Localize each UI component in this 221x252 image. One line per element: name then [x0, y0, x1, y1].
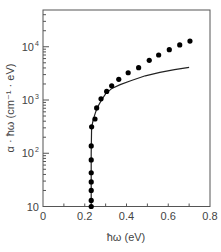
data-markers: [89, 38, 193, 209]
chart: 00.20.40.60.8 10102103104 ħω (eV) α · ħω…: [0, 0, 221, 252]
y-tick-label: 10: [27, 201, 39, 213]
x-tick-label: 0.8: [202, 210, 217, 222]
data-point: [136, 65, 141, 70]
data-point: [89, 188, 94, 193]
data-point: [98, 96, 103, 101]
data-point: [89, 198, 94, 203]
data-point: [89, 124, 94, 129]
y-tick-exponent: 3: [35, 93, 39, 100]
data-point: [94, 105, 99, 110]
y-axis-ticks: 10102103104: [22, 15, 49, 213]
fit-curve: [91, 67, 189, 206]
data-point: [92, 116, 97, 121]
x-tick-label: 0.6: [161, 210, 176, 222]
data-point: [187, 38, 192, 43]
y-tick-label: 10: [22, 94, 34, 106]
y-tick-exponent: 2: [35, 146, 39, 153]
data-point: [89, 204, 94, 209]
data-point: [89, 179, 94, 184]
y-tick-label: 10: [22, 147, 34, 159]
data-point: [89, 143, 94, 148]
data-point: [116, 77, 121, 82]
data-point: [109, 83, 114, 88]
data-point: [147, 58, 152, 63]
y-tick-label: 10: [22, 41, 34, 53]
data-point: [89, 170, 94, 175]
x-tick-label: 0.2: [77, 210, 92, 222]
x-tick-label: 0.4: [119, 210, 134, 222]
x-tick-label: 0: [40, 210, 46, 222]
data-point: [156, 52, 161, 57]
y-tick-exponent: 4: [35, 40, 39, 47]
x-axis-title: ħω (eV): [107, 231, 146, 243]
data-point: [104, 89, 109, 94]
data-point: [126, 70, 131, 75]
data-point: [177, 42, 182, 47]
data-point: [167, 47, 172, 52]
y-axis-title: α · ħω (cm⁻¹ · eV): [4, 64, 16, 153]
data-point: [89, 157, 94, 162]
plot-frame: [43, 10, 210, 207]
